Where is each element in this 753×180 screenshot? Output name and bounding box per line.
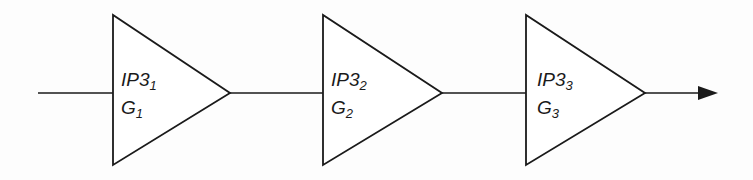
- stage-3-gain-label: G3: [537, 98, 559, 120]
- stage-2-ip3-label: IP32: [331, 70, 367, 92]
- ip3-subscript: 1: [150, 78, 157, 93]
- gain-subscript: 1: [136, 106, 143, 121]
- diagram-graphics: [0, 0, 753, 180]
- ip3-text: IP3: [331, 69, 360, 90]
- output-arrowhead-icon: [698, 86, 718, 100]
- ip3-subscript: 2: [360, 78, 367, 93]
- gain-subscript: 2: [346, 106, 353, 121]
- gain-text: G: [121, 97, 136, 118]
- ip3-text: IP3: [121, 69, 150, 90]
- ip3-text: IP3: [537, 69, 566, 90]
- stage-1-gain-label: G1: [121, 98, 143, 120]
- stage-2-gain-label: G2: [331, 98, 353, 120]
- cascade-diagram: IP31 G1 IP32 G2 IP33 G3: [0, 0, 753, 180]
- gain-text: G: [537, 97, 552, 118]
- stage-1-ip3-label: IP31: [121, 70, 157, 92]
- stage-3-ip3-label: IP33: [537, 70, 573, 92]
- ip3-subscript: 3: [566, 78, 573, 93]
- gain-text: G: [331, 97, 346, 118]
- gain-subscript: 3: [552, 106, 559, 121]
